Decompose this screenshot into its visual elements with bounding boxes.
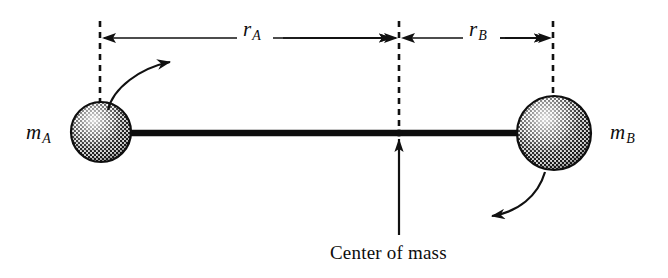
radius-b-subscript: B — [477, 28, 487, 43]
rotation-arrow-mass-b — [492, 172, 545, 216]
rotation-arrow-mass-a — [108, 62, 170, 110]
mass-b-subscript: B — [625, 131, 635, 146]
mass-b-symbol: m — [610, 120, 625, 144]
center-of-mass-caption: Center of mass — [330, 243, 447, 262]
mass-b-sphere — [517, 96, 591, 170]
radius-a-label: rA — [243, 19, 261, 43]
mass-b-label: mB — [610, 122, 635, 146]
mass-a-subscript: A — [41, 131, 51, 146]
mass-a-label: mA — [26, 122, 51, 146]
center-of-mass-figure: mA mB rA rB Center of mass — [0, 0, 668, 278]
figure-canvas — [0, 0, 668, 278]
radius-a-subscript: A — [251, 28, 261, 43]
radius-a-symbol: r — [243, 17, 251, 41]
radius-b-label: rB — [469, 19, 487, 43]
radius-b-symbol: r — [469, 17, 477, 41]
center-of-mass-point — [396, 130, 403, 137]
mass-a-symbol: m — [26, 120, 41, 144]
mass-a-sphere — [71, 102, 131, 162]
